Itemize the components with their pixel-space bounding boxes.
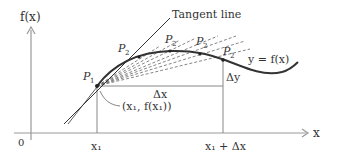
point-p2-c: [198, 52, 201, 55]
x1-plus-dx-tick-label: x₁ + Δx: [205, 140, 247, 153]
p2-label-a: P 2: [117, 42, 129, 57]
x1-tick-label: x₁: [91, 140, 102, 153]
curve-label: y = f(x): [247, 53, 289, 66]
x-axis-label: x: [313, 126, 320, 140]
point-p2-a: [137, 55, 140, 58]
coords-callout-line: [100, 91, 120, 106]
point-p1: [95, 84, 99, 88]
tangent-line-label: Tangent line: [172, 8, 241, 21]
p2-label-d: P 2: [222, 45, 234, 60]
delta-x-label: Δx: [153, 88, 168, 101]
delta-y-label: Δy: [226, 71, 241, 84]
point-coords-label: (x₁, f(x₁)): [122, 100, 171, 113]
svg-text:1: 1: [90, 77, 94, 85]
tangent-line-shadow: [68, 87, 97, 124]
y-axis-label: f(x): [20, 10, 41, 24]
y-axis: [27, 27, 35, 140]
svg-text:2: 2: [203, 42, 207, 50]
point-p2-b: [168, 49, 171, 52]
svg-text:2: 2: [172, 40, 176, 48]
p2-label-b: P 2: [164, 33, 176, 48]
svg-text:2: 2: [125, 49, 129, 57]
point-p2-d: [221, 58, 225, 62]
x-axis: [14, 129, 308, 137]
p1-label: P 1: [82, 70, 94, 85]
secant-tangent-diagram: f(x) x 0 Tangent line y = f(x) P 1 P 2 P…: [0, 0, 338, 159]
svg-text:2: 2: [230, 52, 234, 60]
p2-label-c: P 2: [195, 35, 207, 50]
origin-label: 0: [18, 137, 24, 148]
